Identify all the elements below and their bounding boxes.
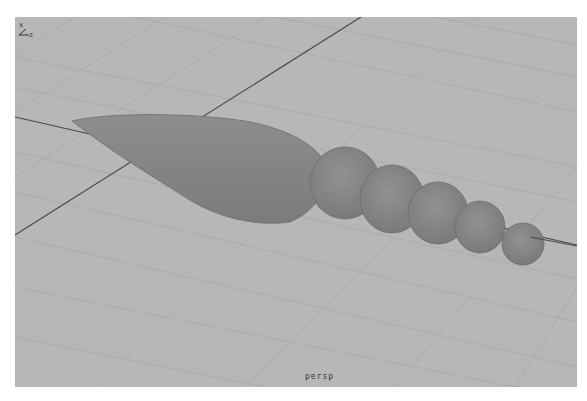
camera-label: persp [305, 372, 334, 381]
carrot-body[interactable] [72, 115, 328, 224]
carrot-segments [310, 147, 544, 265]
perspective-viewport[interactable]: x z persp [15, 17, 577, 387]
carrot-segment-4[interactable] [455, 201, 505, 253]
axis-gizmo-icon: x z [15, 17, 37, 39]
gizmo-x-label: x [19, 21, 23, 29]
gizmo-z-label: z [29, 31, 33, 39]
viewport-canvas[interactable] [15, 17, 577, 387]
carrot-segment-5[interactable] [502, 223, 544, 265]
